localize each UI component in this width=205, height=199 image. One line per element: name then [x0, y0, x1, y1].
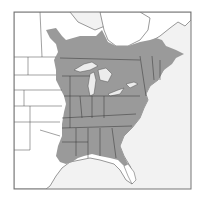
range-map: Species range (eastern US and southern C…	[0, 0, 205, 199]
map-graphic	[0, 0, 205, 199]
